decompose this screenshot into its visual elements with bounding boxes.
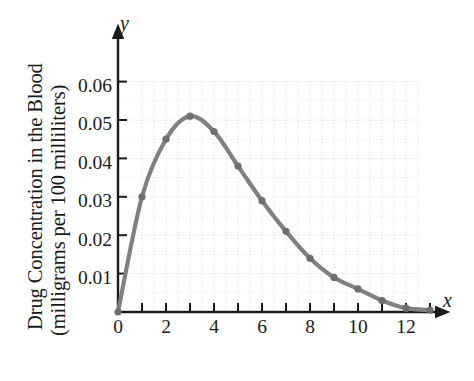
plot-area bbox=[0, 0, 474, 381]
grid-vertical-lines bbox=[142, 82, 418, 312]
grid-horizontal-lines bbox=[118, 82, 418, 293]
data-curve bbox=[118, 116, 430, 312]
chart-figure: Drug Concentration in the Blood (milligr… bbox=[0, 0, 474, 381]
